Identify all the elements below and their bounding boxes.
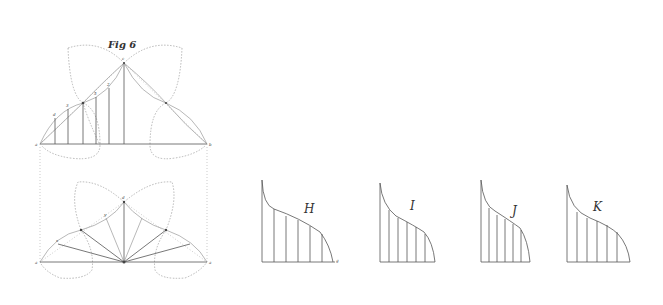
subfigure-j: J [481,180,530,262]
fig6-bottom-construction: a a d x y [35,182,212,279]
subfigure-h: H g [262,180,339,263]
svg-text:5: 5 [94,91,97,96]
subfigure-h-label: H [303,202,315,216]
svg-text:x: x [56,238,59,243]
engraved-plate: Fig 6 a b c d [0,0,663,305]
svg-text:g: g [336,258,339,263]
svg-text:d: d [122,195,125,200]
subfigure-k-label: K [592,200,603,214]
svg-text:c: c [122,56,125,61]
svg-text:b: b [209,142,212,147]
svg-text:a: a [35,260,38,265]
figure-title: Fig 6 [107,39,136,50]
subfigure-i: I [380,183,435,262]
subfigure-j-label: J [509,204,518,218]
svg-text:a: a [35,142,38,147]
fig6-top-construction: Fig 6 a b c d [35,39,212,262]
svg-text:3: 3 [66,103,69,108]
svg-text:a: a [209,260,212,265]
svg-text:2: 2 [106,82,110,87]
svg-text:d: d [53,112,56,117]
subfigure-i-label: I [409,199,415,213]
subfigure-k: K [567,185,630,262]
